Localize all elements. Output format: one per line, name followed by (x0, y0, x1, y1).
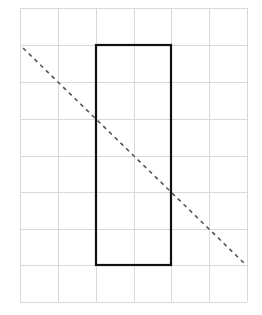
grid-diagram (0, 0, 262, 315)
